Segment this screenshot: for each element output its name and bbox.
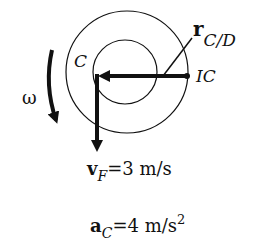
r-label: rC/D: [193, 17, 236, 50]
a-subscript: C: [102, 225, 113, 241]
r-subscript: C/D: [204, 30, 237, 50]
a-exponent: 2: [177, 212, 185, 227]
ic-point: [184, 73, 190, 79]
inner-circle: [93, 40, 157, 104]
a-value: =4 m/s: [112, 215, 177, 236]
r-main: r: [193, 17, 204, 41]
omega-label: ω: [22, 87, 37, 108]
v-value: =3 m/s: [107, 158, 172, 179]
omega-rotation-arrow: [49, 50, 56, 120]
velocity-label: vF=3 m/s: [86, 158, 172, 184]
v-main: v: [86, 158, 98, 179]
ic-label: IC: [195, 66, 216, 86]
kinematics-diagram: C IC ω rC/D vF=3 m/s aC=4 m/s2: [0, 0, 254, 252]
a-main: a: [90, 215, 102, 236]
center-label: C: [74, 51, 87, 71]
acceleration-label: aC=4 m/s2: [90, 212, 185, 241]
outer-circle: [66, 11, 188, 133]
